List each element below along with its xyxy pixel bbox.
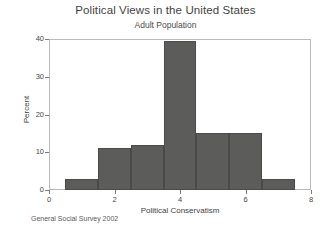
y-axis-tick-label: 0 — [26, 185, 44, 194]
y-axis-tick — [45, 77, 49, 78]
x-axis-tick — [115, 190, 116, 194]
y-axis-tick — [45, 115, 49, 116]
source-caption: General Social Survey 2002 — [31, 215, 118, 222]
histogram-bar — [131, 145, 164, 190]
y-axis-tick — [45, 152, 49, 153]
x-axis-tick — [311, 190, 312, 194]
y-axis-tick — [45, 39, 49, 40]
chart-title: Political Views in the United States — [0, 4, 331, 16]
x-axis-tick-label: 2 — [105, 195, 125, 204]
histogram-bar — [262, 179, 295, 190]
histogram-bar — [65, 179, 98, 190]
x-axis-title: Political Conservatism — [49, 206, 311, 215]
x-axis-tick-label: 0 — [39, 195, 59, 204]
histogram-bar — [196, 133, 229, 190]
bars-layer — [49, 39, 311, 190]
x-axis-tick-label: 8 — [301, 195, 321, 204]
histogram-bar — [98, 148, 131, 190]
y-axis-tick-label: 40 — [26, 34, 44, 43]
chart-subtitle: Adult Population — [0, 20, 331, 30]
x-axis-tick — [49, 190, 50, 194]
x-axis-tick — [246, 190, 247, 194]
x-axis-tick-label: 4 — [170, 195, 190, 204]
histogram-chart: Political Views in the United States Adu… — [0, 0, 331, 236]
y-axis-title: Percent — [22, 80, 31, 140]
histogram-bar — [229, 133, 262, 190]
x-axis-tick-label: 6 — [236, 195, 256, 204]
y-axis-tick-label: 10 — [26, 147, 44, 156]
histogram-bar — [164, 41, 197, 190]
x-axis-tick — [180, 190, 181, 194]
